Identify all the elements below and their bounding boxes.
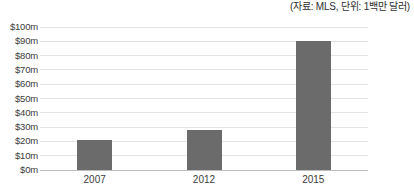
gridline: [40, 27, 368, 28]
y-axis-tick-label: $30m: [2, 122, 38, 132]
y-axis-tick-label: $20m: [2, 136, 38, 146]
x-axis-tick-label: 2012: [149, 173, 258, 187]
y-axis-tick-label: $100m: [2, 22, 38, 32]
x-axis: 200720122015: [40, 173, 368, 191]
x-axis-tick-label: 2007: [40, 173, 149, 187]
bar[interactable]: [77, 140, 112, 170]
bar-chart: $0m$10m$20m$30m$40m$50m$60m$70m$80m$90m$…: [0, 0, 414, 195]
plot-area: [40, 27, 368, 170]
y-axis: $0m$10m$20m$30m$40m$50m$60m$70m$80m$90m$…: [0, 27, 38, 170]
y-axis-tick-label: $60m: [2, 79, 38, 89]
y-axis-tick-label: $70m: [2, 65, 38, 75]
y-axis-tick-label: $50m: [2, 94, 38, 104]
y-axis-tick-label: $40m: [2, 108, 38, 118]
y-axis-tick-label: $80m: [2, 51, 38, 61]
y-axis-tick-label: $0m: [2, 165, 38, 175]
x-axis-tick-label: 2015: [259, 173, 368, 187]
bar[interactable]: [187, 130, 222, 170]
y-axis-tick-label: $90m: [2, 36, 38, 46]
y-axis-tick-label: $10m: [2, 151, 38, 161]
bar[interactable]: [296, 41, 331, 170]
